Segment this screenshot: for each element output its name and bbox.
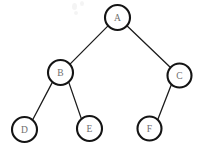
tree-edge-b-e — [69, 82, 82, 118]
binary-tree-graphic: A B C D E F — [0, 0, 205, 158]
tree-node-c[interactable]: C — [168, 64, 192, 88]
tree-node-b[interactable]: B — [48, 60, 73, 85]
tree-edge-b-d — [33, 82, 53, 119]
node-label-e: E — [86, 124, 92, 134]
tree-node-d[interactable]: D — [12, 117, 37, 142]
tree-diagram-canvas: A B C D E F — [0, 0, 205, 158]
tree-node-f[interactable]: F — [138, 117, 162, 141]
tree-node-a[interactable]: A — [105, 5, 130, 30]
tree-edge-c-f — [158, 85, 171, 119]
node-label-f: F — [147, 124, 152, 134]
tree-edge-a-c — [127, 26, 171, 68]
tree-edge-a-b — [70, 26, 108, 64]
node-label-c: C — [176, 71, 183, 81]
tree-node-e[interactable]: E — [77, 116, 102, 141]
node-label-a: A — [114, 13, 121, 23]
node-label-d: D — [21, 125, 28, 135]
node-label-b: B — [57, 68, 64, 78]
